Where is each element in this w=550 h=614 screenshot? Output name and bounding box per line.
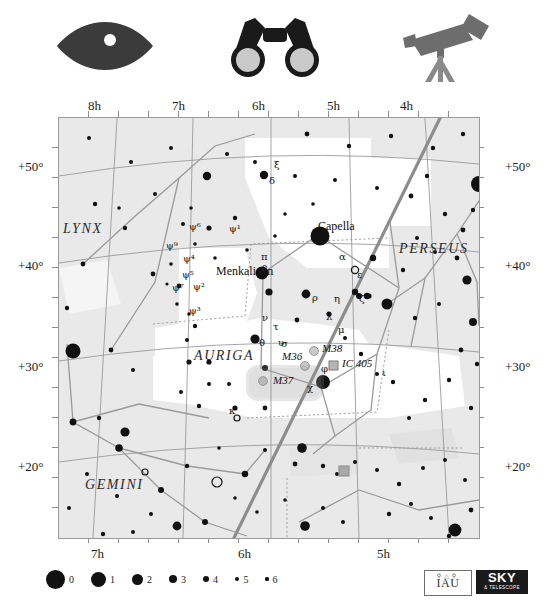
legend-magnitude-value: 1 [110,574,115,585]
constellation-label-auriga: AURIGA [194,348,254,364]
ra-label-top-4h: 4h [400,98,413,114]
greek-label-22: ψ³ [189,305,201,316]
observing-equipment-icons [0,0,550,95]
greek-label-7: ι [382,367,386,378]
greek-label-1: β [262,263,268,274]
sky-telescope-logo: SKY & TELESCOPE [476,570,528,594]
legend-item-mag-1: 1 [91,566,132,596]
magnitude-legend: 0123456 [46,566,346,598]
dec-label-left-40: +40° [18,258,44,274]
dso-label-m36[interactable]: M36 [282,350,302,362]
greek-label-16: τ [273,321,279,332]
legend-magnitude-value: 0 [69,574,74,585]
greek-label-4: ζ [359,293,364,304]
dso-label-ic405[interactable]: IC 405 [342,357,372,369]
sky-telescope-logo-title: SKY [476,570,528,585]
dec-label-right-30: +30° [505,359,531,375]
legend-dot [203,576,209,582]
ra-label-top-8h: 8h [88,98,101,114]
sky-telescope-logo-subtitle: & TELESCOPE [476,585,528,590]
greek-label-17: υ [278,337,284,348]
legend-item-mag-0: 0 [46,566,91,596]
greek-label-27: ψ⁹ [166,240,178,251]
legend-dot [46,570,65,589]
greek-label-19: χ [307,382,313,393]
greek-label-25: ψ⁶ [189,221,201,232]
binoculars-icon [215,8,335,88]
legend-magnitude-value: 2 [147,574,152,585]
dec-label-right-20: +20° [505,459,531,475]
greek-label-5: η [334,293,340,304]
star-label-capella: Capella [318,219,355,234]
dec-label-left-50: +50° [18,159,44,175]
legend-dot [169,575,177,583]
legend-item-mag-3: 3 [169,566,203,596]
legend-magnitude-value: 6 [273,574,278,585]
telescope-icon [385,8,505,88]
greek-label-20: ψ¹ [229,223,241,234]
ra-label-bottom-7h: 7h [91,546,104,562]
sky-chart[interactable]: LYNX AURIGA PERSEUS GEMINI Capella Menka… [58,117,480,539]
dec-label-left-30: +30° [18,359,44,375]
greek-label-8: κ [229,405,235,416]
greek-label-6: θ [259,337,265,348]
legend-item-mag-6: 6 [265,566,294,596]
constellation-label-perseus: PERSEUS [399,241,469,257]
legend-item-mag-4: 4 [203,566,235,596]
greek-label-13: π [261,251,268,262]
greek-label-10: μ [338,324,345,335]
greek-label-18: φ [321,363,328,374]
ra-label-bottom-6h: 6h [238,546,251,562]
legend-dot [235,577,239,581]
legend-magnitude-value: 4 [213,574,218,585]
greek-label-21: ψ² [193,281,205,292]
greek-label-14: ρ [312,292,318,303]
dec-label-right-50: +50° [505,159,531,175]
greek-label-24: ψ⁵ [182,269,194,280]
greek-label-9: λ [326,311,332,322]
ra-label-bottom-5h: 5h [377,546,390,562]
greek-label-0: α [339,251,346,262]
dso-label-m37[interactable]: M37 [273,374,293,386]
greek-label-3: ε [357,269,362,280]
legend-dot [132,574,143,585]
dec-label-left-20: +20° [18,459,44,475]
eye-icon [45,8,165,88]
legend-item-mag-5: 5 [235,566,265,596]
greek-label-12: ξ [274,159,280,170]
greek-label-2: δ [269,175,275,186]
greek-label-11: ν [262,312,268,323]
logo-bar: ⚲△⚲ IAU SKY & TELESCOPE [424,570,528,596]
star-chart-page: 8h 7h 6h 5h 4h 7h 6h 5h +50° +40° +30° +… [0,0,550,614]
greek-label-23: ψ⁴ [183,253,195,264]
ra-label-top-6h: 6h [252,98,265,114]
legend-dot [91,572,106,587]
dec-label-right-40: +40° [505,258,531,274]
constellation-label-lynx: LYNX [63,221,103,237]
legend-dot [265,577,268,580]
legend-magnitude-value: 3 [181,574,186,585]
legend-item-mag-2: 2 [132,566,169,596]
dso-label-m38[interactable]: M38 [322,342,342,354]
greek-label-26: ψ⁷ [172,282,184,293]
iau-logo-text: IAU [425,576,471,591]
iau-logo: ⚲△⚲ IAU [424,570,472,596]
constellation-label-gemini: GEMINI [85,477,144,493]
legend-magnitude-value: 5 [243,574,248,585]
